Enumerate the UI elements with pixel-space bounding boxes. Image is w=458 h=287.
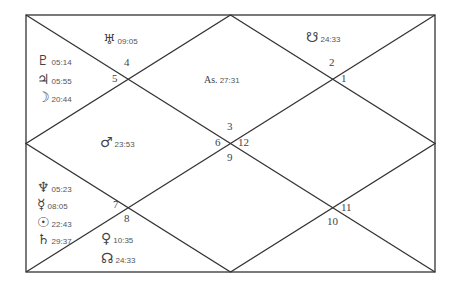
planet-ketu: ☋ 24:33 [306,30,340,44]
planet-jupiter: ♃ 05:55 [37,72,72,86]
ascendant-icon: As. [204,75,218,85]
moon-icon: ☽ [37,90,50,104]
house-number-10: 10 [327,216,338,227]
ketu-degree: 24:33 [320,36,340,44]
planet-venus: ♀ 10:35 [101,231,133,245]
planet-rahu: ☊ 24:33 [101,251,135,265]
house-number-3: 3 [227,121,233,132]
pluto-degree: 05:14 [52,59,72,67]
ketu-icon: ☋ [306,30,318,44]
house-number-8: 8 [124,213,130,224]
jupiter-degree: 05:55 [52,78,72,86]
saturn-icon: ♄ [37,232,50,246]
saturn-degree: 29:37 [52,238,72,246]
planet-uranus: ♅ 09:05 [103,32,138,46]
planet-saturn: ♄ 29:37 [37,232,72,246]
neptune-icon: ♆ [37,180,50,194]
sun-degree: 22:43 [52,221,72,229]
house-number-4: 4 [124,57,130,68]
house-number-2: 2 [329,57,335,68]
house-number-7: 7 [113,199,119,210]
moon-degree: 20:44 [52,96,72,104]
rahu-degree: 24:33 [115,257,135,265]
mars-icon: ♂ [100,135,113,149]
house-number-9: 9 [227,152,233,163]
neptune-degree: 05:23 [52,186,72,194]
house-number-12: 12 [238,137,249,148]
venus-icon: ♀ [101,231,111,245]
uranus-degree: 09:05 [118,38,138,46]
house-number-5: 5 [112,73,118,84]
jupiter-icon: ♃ [37,72,50,86]
uranus-icon: ♅ [103,32,116,46]
sun-icon: ☉ [37,215,50,229]
house-number-1: 1 [341,73,347,84]
planet-sun: ☉ 22:43 [37,215,72,229]
planet-mercury: ☿ 08:05 [37,197,68,211]
planet-mars: ♂ 23:53 [100,135,135,149]
ascendant-label: As. 27:31 [204,75,240,85]
pluto-icon: ♇ [37,53,50,67]
house-number-11: 11 [341,202,352,213]
ascendant-degree: 27:31 [220,77,240,85]
house-number-6: 6 [215,137,221,148]
planet-moon: ☽ 20:44 [37,90,72,104]
rahu-icon: ☊ [101,251,113,265]
venus-degree: 10:35 [113,237,133,245]
mercury-degree: 08:05 [48,203,68,211]
planet-pluto: ♇ 05:14 [37,53,72,67]
mercury-icon: ☿ [37,197,46,211]
planet-neptune: ♆ 05:23 [37,180,72,194]
mars-degree: 23:53 [115,141,135,149]
